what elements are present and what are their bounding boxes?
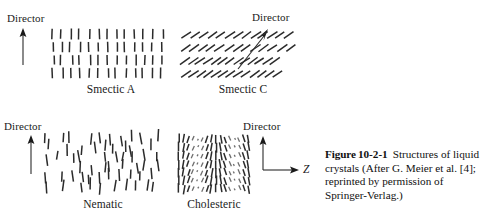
phase-label-nematic: Nematic [45, 198, 161, 210]
molecule-grid-smectic-a [50, 28, 172, 80]
phase-label-smectic-c: Smectic C [184, 83, 302, 95]
caption-figure-word: Figure [325, 148, 356, 160]
phase-label-smectic-a: Smectic A [50, 83, 172, 95]
axis-label-z: Z [303, 163, 309, 175]
director-label-nematic: Director [4, 120, 41, 132]
figure-caption: Figure10-2-1Structures of liquid crystal… [325, 148, 487, 202]
director-arrow-smectic-a [18, 28, 34, 66]
director-label-smectic-c: Director [252, 11, 289, 23]
director-label-smectic-a: Director [7, 12, 44, 24]
figure-container: Director Smectic A Director Smectic C Di… [0, 0, 491, 223]
phase-label-cholesteric: Cholesteric [170, 198, 258, 210]
director-label-cholesteric: Director [243, 120, 280, 132]
molecule-field-cholesteric [176, 134, 252, 196]
caption-figure-number: 10-2-1 [358, 148, 388, 160]
molecule-field-nematic [45, 133, 161, 195]
director-arrow-nematic [26, 135, 42, 175]
molecule-grid-smectic-c [184, 28, 306, 80]
